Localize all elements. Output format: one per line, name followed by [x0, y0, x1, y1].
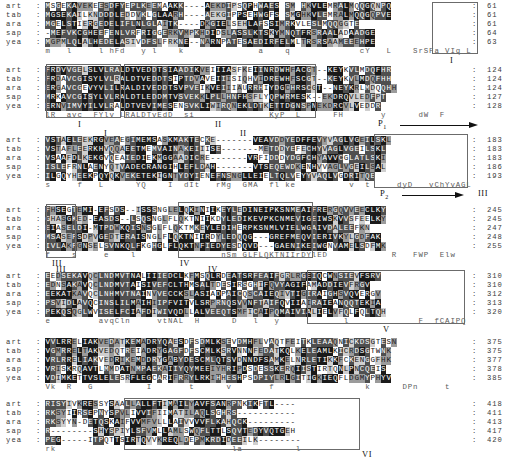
row-separator-left: :	[36, 20, 40, 29]
row-separator-left: :	[36, 400, 40, 409]
residue-position-number: 64	[487, 29, 497, 38]
row-separator-left: :	[36, 163, 40, 172]
row-separator-right: :	[472, 93, 476, 102]
row-separator-left: :	[36, 206, 40, 215]
residue-position-number: 124	[487, 84, 503, 93]
sequence-label: sap	[6, 427, 22, 436]
residue-position-number: 420	[487, 436, 503, 445]
row-separator-left: :	[36, 224, 40, 233]
alignment-row: art:VVLRRELIAKVEDATKEMADRYQAESDFSDMLKSEV…	[0, 338, 527, 347]
motif-label-VI-block7-text: VI	[362, 449, 372, 459]
sequence-label: art	[6, 338, 22, 347]
sequence-label: art	[6, 206, 22, 215]
consensus-line: m l l hFd y l k a q cY L SrSFa VIq L	[45, 47, 471, 56]
row-separator-right: :	[472, 66, 476, 75]
residue-position-number: 375	[487, 347, 503, 356]
residue-position-number: 245	[487, 206, 503, 215]
row-separator-left: :	[36, 145, 40, 154]
motif-box-V-block5	[307, 270, 465, 324]
motif-label-V-block5-text: V	[383, 324, 390, 334]
sequence-residues: -MEFVKCGHEEFENLVRFRIGGERKVMPKHDIDSLASSLK…	[45, 29, 375, 38]
residue-position-number: 183	[487, 136, 503, 145]
residue-position-number: 313	[487, 299, 503, 308]
row-separator-right: :	[472, 338, 476, 347]
motif-label-III-block3: III	[478, 188, 488, 198]
sequence-residues: VSTAFLEERKHVQQAEETMEMVAINAKEIIISE-------…	[45, 145, 386, 154]
sequence-label: ara	[6, 20, 22, 29]
residue-position-number: 320	[487, 308, 503, 317]
sequence-label: yea	[6, 172, 22, 181]
row-separator-right: :	[472, 102, 476, 111]
row-separator-left: :	[36, 84, 40, 93]
residue-position-number: 312	[487, 290, 503, 299]
row-separator-right: :	[472, 365, 476, 374]
row-separator-right: :	[472, 84, 476, 93]
row-separator-right: :	[472, 242, 476, 251]
motif-box-VI-block7	[124, 398, 360, 450]
row-separator-left: :	[36, 154, 40, 163]
residue-position-number: 63	[487, 38, 497, 47]
residue-position-number: 385	[487, 374, 503, 383]
sequence-label: sap	[6, 163, 22, 172]
sequence-alignment-figure: art:MSGEKAVEKEESDFYEPLKEEMAAKK----AEKDIP…	[0, 0, 527, 462]
row-separator-right: :	[472, 163, 476, 172]
row-separator-left: :	[36, 427, 40, 436]
row-separator-right: :	[472, 206, 476, 215]
residue-position-number: 61	[487, 2, 497, 11]
row-separator-right: :	[472, 154, 476, 163]
row-separator-right: :	[472, 172, 476, 181]
sequence-residues: VRLRRELIAKVEDRIKEMDDRYGABYDESCMLQTSVDNND…	[45, 356, 391, 365]
row-separator-right: :	[472, 136, 476, 145]
motif-label-I-block3-text: I	[104, 128, 107, 138]
row-separator-right: :	[472, 75, 476, 84]
row-separator-left: :	[36, 102, 40, 111]
sequence-label: sap	[6, 365, 22, 374]
sequence-residues: VRISKRQAVTLMMDATNMPAEKAIIYQYMEEIYHRIPDSD…	[45, 365, 386, 374]
residue-position-number: 248	[487, 233, 503, 242]
row-separator-left: :	[36, 281, 40, 290]
motif-label-II-block2-text: II	[215, 119, 222, 129]
residue-position-number: 377	[487, 356, 503, 365]
residue-position-number: 310	[487, 272, 503, 281]
residue-position-number: 124	[487, 66, 503, 75]
alignment-row: yea:VDIMKETTVSLELESRFLEGCARIFRRYLRKIHHES…	[0, 374, 527, 383]
p2-arrow-shaft	[402, 195, 455, 196]
motif-label-II-block2: II	[215, 119, 222, 129]
row-separator-right: :	[472, 400, 476, 409]
residue-position-number: 375	[487, 338, 503, 347]
sequence-label: tab	[6, 281, 22, 290]
residue-position-number: 411	[487, 409, 503, 418]
row-separator-left: :	[36, 338, 40, 347]
sequence-label: ara	[6, 418, 22, 427]
motif-label-II-block3: II	[240, 128, 247, 138]
motif-label-I-block3: I	[104, 128, 107, 138]
row-separator-left: :	[36, 136, 40, 145]
motif-label-III-block5-text: III	[56, 264, 66, 274]
motif-label-III-block5: III	[56, 264, 66, 274]
residue-position-number: 245	[487, 215, 503, 224]
sequence-residues: MGELSTIERGEDELIFLNLGLAITK----DKGIELSEHLA…	[45, 20, 359, 29]
row-separator-left: :	[36, 233, 40, 242]
residue-position-number: 418	[487, 400, 503, 409]
motif-label-I-block2-text: I	[78, 119, 81, 129]
residue-position-number: 247	[487, 224, 503, 233]
residue-position-number: 183	[487, 154, 503, 163]
sequence-label: sap	[6, 29, 22, 38]
row-separator-right: :	[472, 215, 476, 224]
residue-position-number: 124	[487, 75, 503, 84]
row-separator-left: :	[36, 374, 40, 383]
p1-arrow-head	[469, 122, 478, 128]
sequence-label: yea	[6, 374, 22, 383]
sequence-label: sap	[6, 299, 22, 308]
row-separator-right: :	[472, 281, 476, 290]
sequence-residues: ILGQYHEEKPQYQKVEKETEKIGNTYDYIENEFNSNGLLE…	[45, 172, 375, 181]
sequence-label: art	[6, 66, 22, 75]
p1-arrow-label: P1	[378, 118, 387, 130]
sequence-label: tab	[6, 75, 22, 84]
row-separator-right: :	[472, 308, 476, 317]
alignment-row: tab:VGMRRELTAKVEDQTREIADRYGAGFDFSCMLKSRV…	[0, 347, 527, 356]
motif-box-III-block4	[46, 204, 76, 258]
sequence-residues: VDIMKETTVSLELESRFLEGCARIFRRYLRKIHHESHPSD…	[45, 374, 391, 383]
p1-arrow-label-subscript: 1	[383, 124, 387, 130]
row-separator-left: :	[36, 66, 40, 75]
